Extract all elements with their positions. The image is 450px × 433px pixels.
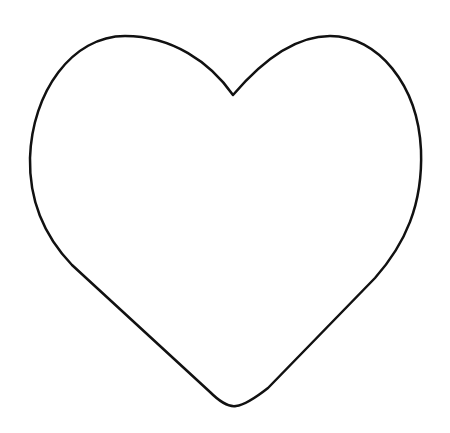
heart-outline: [30, 36, 421, 406]
drawing-canvas: [0, 0, 450, 433]
heart-icon: [0, 0, 450, 433]
